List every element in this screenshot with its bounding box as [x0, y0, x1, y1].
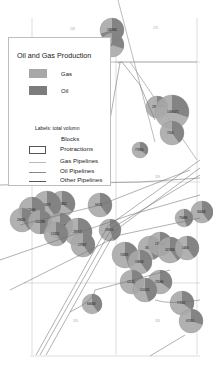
production-site[interactable]: 5460 [175, 236, 199, 260]
legend-oil-pipelines-label: Oil Pipelines [60, 167, 94, 174]
site-volume-label: 17451 [51, 232, 60, 236]
block-label: 270 [153, 26, 158, 30]
site-volume-label: 7052 [167, 131, 174, 135]
gas-pipeline-line-icon [29, 162, 46, 163]
site-volume-label: 29625 [17, 218, 26, 222]
legend-other-pipelines-label: Other Pipelines [60, 176, 102, 183]
legend-note: Labels: total volumn [35, 125, 79, 131]
production-site[interactable]: 79486 [175, 209, 193, 227]
site-volume-label: 117456 [165, 248, 175, 252]
site-volume-label: 1066471 [167, 110, 179, 114]
site-volume-label: 17367 [78, 243, 87, 247]
legend-blocks-label: Blocks [61, 135, 79, 142]
site-volume-label: 79486 [179, 216, 188, 220]
site-volume-label: 97861 [177, 301, 186, 305]
site-volume-label: 18843 [135, 260, 144, 264]
block-label: 321 [72, 247, 77, 251]
oil-pipeline-line-icon [29, 172, 46, 173]
production-site[interactable]: 30058 [191, 201, 213, 223]
gas-swatch-icon [29, 69, 47, 78]
legend-gas-pipelines-label: Gas Pipelines [60, 157, 98, 164]
oil-swatch-icon [29, 86, 47, 95]
legend-item-label: Gas [61, 71, 72, 77]
production-site[interactable]: 7052 [160, 121, 184, 145]
site-volume-label: 66608 [87, 302, 96, 306]
site-volume-label: 101011 [140, 288, 150, 292]
protraction-swatch-icon [29, 146, 46, 154]
site-volume-label: 23566 [155, 280, 164, 284]
site-volume-label: 5460 [182, 246, 189, 250]
other-pipeline-line-icon [29, 181, 46, 182]
production-site[interactable]: 77834 [132, 142, 148, 158]
production-site[interactable]: 101011 [133, 278, 157, 302]
production-site[interactable]: 49920 [99, 219, 121, 241]
legend-item-oil: Oil [9, 86, 68, 95]
block-label: 263 [70, 27, 75, 31]
block-label: 326 [155, 319, 160, 323]
legend-item-gas: Gas [9, 69, 72, 78]
block-label: 355 [73, 319, 78, 323]
site-volume-label: 186961 [107, 28, 117, 32]
production-site[interactable]: 17451 [44, 222, 68, 246]
production-site[interactable]: 67411 [179, 309, 203, 333]
site-volume-label: 70381 [120, 253, 129, 257]
legend-item-label: Oil [61, 88, 68, 94]
site-volume-label: 30058 [197, 210, 206, 214]
site-volume-label: 9413 [95, 203, 102, 207]
site-volume-label: 77834 [135, 148, 144, 152]
legend-protractions-label: Protractions [60, 145, 93, 152]
legend-title: Oil and Gas Production [17, 51, 91, 60]
map-legend: Oil and Gas Production Gas Oil Labels: t… [8, 37, 111, 186]
pipeline [150, 335, 185, 356]
block-label: 313 [155, 100, 160, 104]
site-volume-label: 67411 [186, 319, 194, 323]
block-label: 319 [155, 175, 160, 179]
